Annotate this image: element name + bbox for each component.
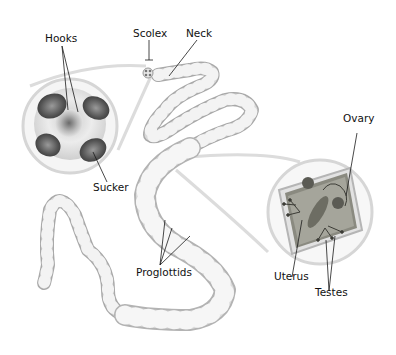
label-neck: Neck	[186, 28, 212, 39]
label-sucker: Sucker	[93, 182, 129, 193]
label-proglottids: Proglottids	[136, 267, 192, 278]
label-testes: Testes	[315, 287, 348, 298]
scolex-small	[143, 68, 153, 78]
proglottid-magnified	[268, 160, 372, 264]
tapeworm-illustration	[0, 0, 396, 355]
scolex-magnified	[23, 79, 117, 173]
label-ovary: Ovary	[343, 113, 374, 124]
label-hooks: Hooks	[45, 33, 77, 44]
tapeworm-diagram: Hooks Scolex Neck Sucker Ovary Proglotti…	[0, 0, 396, 355]
label-uterus: Uterus	[274, 271, 309, 282]
label-scolex: Scolex	[133, 28, 167, 39]
